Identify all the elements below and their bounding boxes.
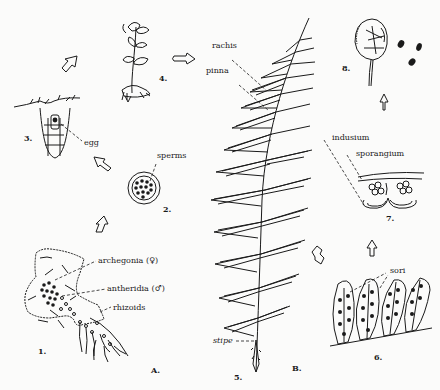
arrow-1-to-2 [96,216,108,232]
label-antheridia: antheridia (♂) [107,285,165,293]
stage-number-5: 5. [234,373,242,381]
stage-number-6: 6. [374,353,382,361]
panel-label-b: B. [292,364,302,372]
sori-drawing [330,273,432,346]
label-sperms: sperms [157,152,186,160]
arrow-2-to-3 [94,157,111,171]
diagram-artwork [0,0,440,390]
antheridium-drawing [128,164,160,204]
label-sporangium: sporangium [356,150,404,158]
fern-life-cycle-diagram: egg sperms archegonia (♀) antheridia (♂)… [0,0,440,390]
arrow-7-to-8 [380,94,388,110]
label-pinna: pinna [206,67,229,75]
label-rachis: rachis [212,42,237,50]
label-indusium: indusium [332,134,369,142]
arrow-4-to-5 [173,53,196,64]
label-stipe: stipe [213,337,233,345]
label-rhizoids: rhizoids [113,304,145,312]
arrow-3-to-4 [62,56,77,72]
stage-number-3: 3. [24,134,32,142]
label-sori: sori [390,267,405,275]
stage-number-1: 1. [38,347,46,355]
stage-number-4: 4. [159,74,167,82]
stage-number-2: 2. [163,205,171,213]
arrow-6-to-7 [367,240,377,256]
archegonium-drawing [14,95,82,158]
stage-number-8: 8. [342,64,350,72]
label-archegonia: archegonia (♀) [98,257,158,265]
panel-label-a: A. [151,366,160,374]
young-sporophyte-drawing [122,22,150,102]
stage-number-7: 7. [386,214,394,222]
sporangium-drawing [355,19,423,86]
label-egg: egg [84,139,99,147]
arrow-5-to-6 [312,246,324,264]
